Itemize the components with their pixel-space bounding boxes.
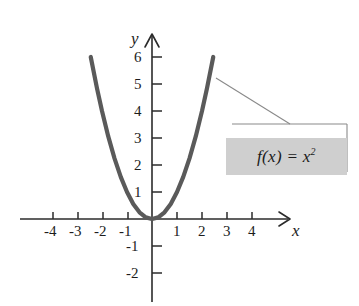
- x-tick-label--3: -3: [69, 224, 82, 239]
- y-tick-label-1: 1: [134, 185, 142, 200]
- y-tick-label-3: 3: [134, 131, 142, 146]
- function-label-box: f(x) = x2: [226, 138, 347, 175]
- function-label-text: f(x) = x2: [257, 146, 316, 167]
- y-tick-label-2: 2: [134, 158, 142, 173]
- x-tick-label--2: -2: [94, 224, 107, 239]
- x-tick-label--4: -4: [44, 224, 57, 239]
- y-axis-ticks: [152, 57, 162, 273]
- function-graph-figure: -4 -3 -2 -1 1 2 3 4 6 5 4 3 2 1 -1 -2 x …: [0, 0, 359, 306]
- x-tick-label-3: 3: [223, 224, 231, 239]
- x-tick-label-2: 2: [198, 224, 206, 239]
- x-tick-label--1: -1: [119, 224, 132, 239]
- y-tick-label-4: 4: [134, 104, 142, 119]
- function-label-exponent: 2: [311, 146, 316, 157]
- y-tick-label-6: 6: [134, 50, 142, 65]
- y-tick-label--1: -1: [126, 239, 139, 254]
- callout-leader-line: [216, 78, 290, 124]
- x-tick-label-1: 1: [173, 224, 181, 239]
- y-tick-label-5: 5: [134, 77, 142, 92]
- x-tick-label-4: 4: [248, 224, 256, 239]
- y-tick-label--2: -2: [126, 266, 139, 281]
- x-axis-label: x: [292, 222, 300, 239]
- function-label-prefix: f(x) = x: [257, 147, 311, 166]
- y-axis-label: y: [131, 30, 139, 47]
